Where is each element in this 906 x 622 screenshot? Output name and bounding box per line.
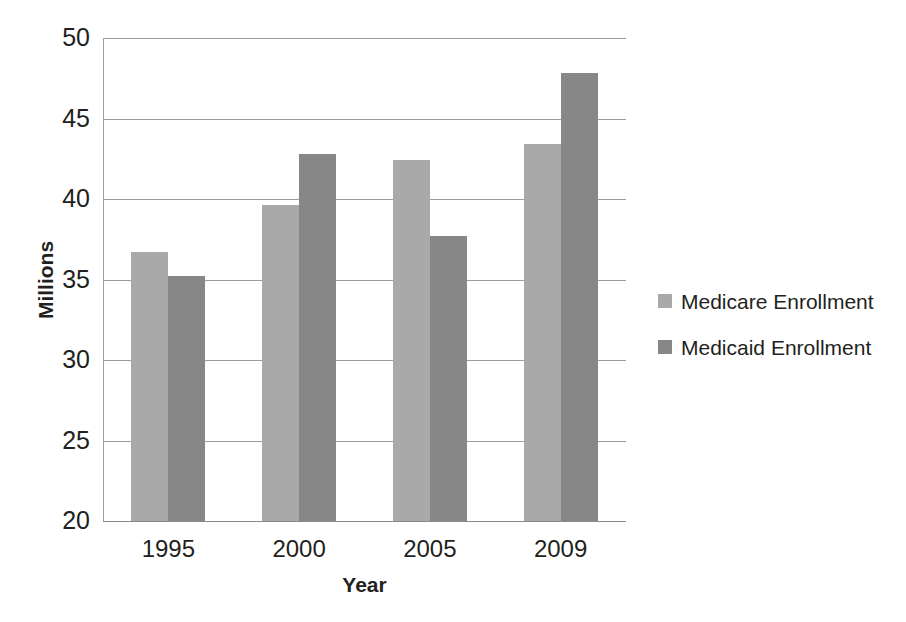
gridline (103, 38, 626, 39)
x-tick-label: 1995 (108, 537, 228, 561)
bar-medicaid-enrollment-2005 (430, 236, 467, 521)
y-tick-label: 25 (34, 428, 90, 453)
y-tick-label: 50 (34, 25, 90, 50)
y-tick-label: 40 (34, 186, 90, 211)
legend-swatch-icon (658, 340, 672, 354)
x-axis-title: Year (103, 573, 626, 597)
y-tick-label: 45 (34, 106, 90, 131)
gridline (103, 521, 626, 522)
x-tick-label: 2000 (239, 537, 359, 561)
legend-label: Medicare Enrollment (681, 291, 874, 312)
legend-label: Medicaid Enrollment (681, 337, 871, 358)
bar-chart: Millions 20253035404550 1995200020052009… (0, 0, 906, 622)
x-tick-label: 2009 (501, 537, 621, 561)
y-tick-label: 35 (34, 267, 90, 292)
bar-medicaid-enrollment-2000 (299, 154, 336, 521)
legend-swatch-icon (658, 294, 672, 308)
y-tick-label: 20 (34, 508, 90, 533)
y-tick-label: 30 (34, 347, 90, 372)
bar-medicare-enrollment-2005 (393, 160, 430, 521)
x-tick-label: 2005 (370, 537, 490, 561)
legend-item[interactable]: Medicare Enrollment (658, 284, 874, 318)
plot-area (103, 38, 626, 521)
bar-medicare-enrollment-2000 (262, 205, 299, 521)
legend: Medicare EnrollmentMedicaid Enrollment (658, 284, 874, 376)
legend-item[interactable]: Medicaid Enrollment (658, 330, 874, 364)
bar-medicare-enrollment-2009 (524, 144, 561, 521)
bar-medicare-enrollment-1995 (131, 252, 168, 521)
gridline (103, 119, 626, 120)
bar-medicaid-enrollment-2009 (561, 73, 598, 521)
bar-medicaid-enrollment-1995 (168, 276, 205, 521)
